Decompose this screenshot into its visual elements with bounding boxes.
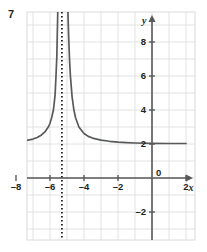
y-tick-label: 4	[141, 104, 147, 115]
tick-labels: –12–10–8–6–4–202–22468yx	[0, 15, 194, 217]
x-tick-label: –6	[45, 181, 56, 192]
grid-lines	[27, 12, 195, 240]
x-tick-label: 0	[156, 167, 161, 178]
x-tick-label: –8	[11, 181, 22, 192]
y-tick-label: 8	[141, 36, 146, 47]
y-tick-label: 2	[141, 138, 146, 149]
function-curve	[25, 0, 187, 143]
y-tick-label: –2	[135, 206, 146, 217]
figure-container: 7 –12–10–8–6–4–202–22468yx	[0, 0, 207, 252]
y-axis-label: y	[141, 15, 147, 26]
coordinate-plane-graph: –12–10–8–6–4–202–22468yx	[0, 0, 207, 252]
x-tick-label: –4	[79, 181, 90, 192]
y-tick-label: 6	[141, 70, 146, 81]
x-axis-label: x	[188, 182, 194, 193]
axes	[0, 15, 193, 240]
x-tick-label: –2	[113, 181, 124, 192]
